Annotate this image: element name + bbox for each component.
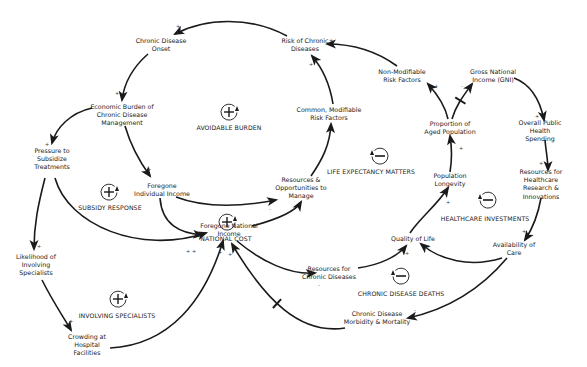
polarity-sign: + — [176, 23, 180, 29]
link-foregone_individual-to-resources_manage — [176, 197, 276, 205]
link-common_risk-to-risk_chronic — [312, 56, 333, 104]
link-availability_care-to-morbidity_mortality — [408, 258, 507, 318]
node-gni: Gross National Income (GNI) — [470, 68, 516, 84]
polarity-sign: + — [434, 83, 438, 89]
link-risk_chronic-to-chronic_onset — [175, 22, 287, 37]
loop-label-involving-specialists: INVOLVING SPECIALISTS — [79, 312, 156, 319]
polarity-sign: - — [326, 128, 328, 134]
polarity-sign: - — [293, 206, 295, 212]
loop-label-healthcare-investments: HEALTHCARE INVESTMENTS — [441, 215, 530, 222]
polarity-sign: + — [309, 61, 313, 67]
loop-label-avoidable-burden: AVOIDABLE BURDEN — [196, 124, 261, 131]
loop-marker-healthcare_investments — [478, 192, 496, 208]
link-likelihood_specialists-to-crowding — [42, 280, 71, 330]
link-pop_longevity-to-aged_pop — [450, 136, 452, 172]
polarity-sign: + — [69, 318, 73, 324]
polarity-sign: + — [192, 248, 196, 254]
node-nonmod-risk: Non-Modifiable Risk Factors — [378, 68, 425, 84]
polarity-sign: - — [269, 206, 271, 212]
polarity-sign: + — [535, 113, 539, 119]
link-public_spending-to-resources_research — [545, 140, 548, 170]
node-public-spending: Overall Public Health Spending — [517, 119, 564, 144]
loop-label-life-expectancy-matters: LIFE EXPECTANCY MATTERS — [327, 168, 415, 175]
node-resources-manage: Resources & Opportunities to Manage — [275, 176, 326, 201]
node-likelihood-specialists: Likelihood of Involving Specialists — [16, 253, 56, 278]
link-gni-to-public_spending — [514, 78, 544, 120]
link-chronic_onset-to-econ_burden — [122, 54, 148, 100]
polarity-sign: - — [461, 83, 463, 89]
polarity-sign: - — [414, 307, 416, 313]
node-aged-pop: Proportion of Aged Population — [424, 120, 475, 136]
node-morbidity-mortality: Chronic Disease Morbidity & Mortality — [344, 310, 410, 326]
polarity-sign: + — [218, 249, 222, 255]
loop-marker-involving_specialists — [110, 291, 128, 307]
polarity-sign: + — [45, 141, 49, 147]
link-aged_pop-to-nonmod_risk — [428, 84, 448, 119]
loop-label-subsidy-response: SUBSIDY RESPONSE — [78, 204, 141, 211]
node-risk-chronic: Risk of Chronic Diseases — [281, 37, 328, 53]
loop-label-national-cost: NATIONAL COST — [200, 235, 251, 242]
node-pop-longevity: Population Longevity — [433, 172, 466, 188]
polarity-sign: + — [115, 90, 119, 96]
polarity-sign: + — [522, 228, 526, 234]
link-econ_burden-to-pressure_subsidize — [52, 108, 92, 143]
node-chronic-onset: Chronic Disease Onset — [136, 37, 187, 53]
polarity-sign: + — [228, 251, 232, 257]
polarity-sign: + — [329, 37, 333, 43]
loop-label-chronic-disease-deaths: CHRONIC DISEASE DEATHS — [358, 290, 444, 297]
node-pressure-subsidize: Pressure to Subsidize Treatments — [34, 147, 69, 172]
node-quality-life: Quality of Life — [391, 235, 435, 243]
loop-marker-avoidable_burden — [221, 104, 239, 120]
node-resources-research: Resources for Healthcare Research & Inno… — [518, 168, 564, 201]
polarity-sign: + — [446, 199, 450, 205]
node-crowding: Crowding at Hospital Facilities — [68, 333, 106, 358]
link-availability_care-to-quality_life — [421, 244, 502, 262]
polarity-sign: - — [318, 282, 320, 288]
link-quality_life-to-pop_longevity — [410, 188, 448, 233]
link-resources_chronic-to-quality_life — [358, 246, 406, 268]
link-morbidity_mortality-to-foregone_national — [232, 244, 345, 329]
link-pressure_subsidize-to-likelihood_specialists — [34, 178, 45, 249]
loop-marker-chronic_disease_deaths — [391, 268, 409, 284]
polarity-sign: + — [405, 250, 409, 256]
polarity-sign: + — [37, 243, 41, 249]
node-common-risk: Common, Modifiable Risk Factors — [297, 106, 362, 122]
link-nonmod_risk-to-risk_chronic — [327, 44, 397, 66]
node-foregone-individual: Foregone Individual Income — [134, 182, 190, 198]
delay-mark — [455, 97, 465, 103]
loop-marker-life_expectancy_matters — [370, 148, 388, 164]
link-foregone_individual-to-foregone_national — [160, 198, 202, 235]
node-resources-chronic: Resources for Chronic Diseases — [302, 265, 356, 281]
polarity-sign: + — [426, 243, 430, 249]
loop-marker-subsidy_response — [101, 184, 119, 200]
link-crowding-to-foregone_national — [110, 241, 223, 348]
polarity-sign: + — [539, 160, 543, 166]
polarity-sign: + — [186, 248, 190, 254]
polarity-sign: + — [147, 166, 151, 172]
node-availability-care: Availability of Care — [493, 241, 535, 257]
node-econ-burden: Economic Burden of Chronic Disease Manag… — [90, 103, 153, 128]
polarity-sign: + — [459, 145, 463, 151]
